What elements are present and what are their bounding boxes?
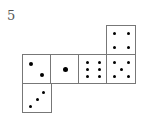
pip-dot — [29, 62, 33, 66]
pip-dot — [86, 61, 89, 64]
pip-dot — [98, 68, 101, 71]
pip-dot — [113, 46, 116, 49]
pip-dot — [113, 61, 116, 64]
pip-dot — [42, 91, 45, 94]
pip-dot — [120, 68, 123, 71]
face-two — [22, 54, 52, 84]
face-three — [22, 83, 52, 113]
face-six — [78, 54, 108, 84]
pip-dot — [36, 98, 39, 101]
pip-dot — [127, 75, 130, 78]
pip-dot — [29, 105, 32, 108]
question-number: 5 — [7, 8, 15, 23]
pip-dot — [98, 61, 101, 64]
face-five — [106, 54, 136, 84]
pip-dot — [98, 75, 101, 78]
face-four — [106, 25, 136, 55]
pip-dot — [127, 46, 130, 49]
face-one — [50, 54, 80, 84]
pip-dot — [127, 32, 130, 35]
pip-dot — [127, 61, 130, 64]
pip-dot — [86, 75, 89, 78]
pip-dot — [63, 67, 68, 72]
pip-dot — [113, 75, 116, 78]
pip-dot — [113, 32, 116, 35]
pip-dot — [40, 73, 44, 77]
pip-dot — [86, 68, 89, 71]
